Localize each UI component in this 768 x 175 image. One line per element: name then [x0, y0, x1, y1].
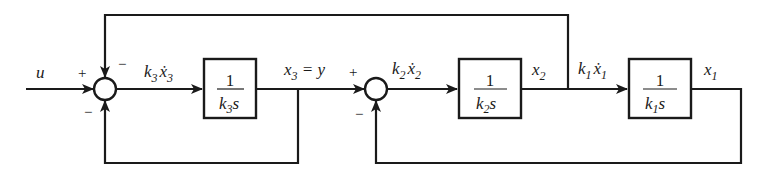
- sum2-plus-sign: +: [349, 64, 357, 80]
- sum2-bottom-minus-sign: −: [355, 106, 363, 122]
- sum1-top-minus-sign: −: [118, 56, 126, 72]
- sum1-plus-sign: +: [78, 65, 86, 81]
- summing-junction-1: [94, 78, 116, 100]
- signal-k1x1dot: k1ẋ1: [578, 59, 607, 82]
- signal-x3-eq-y: x3 = y: [283, 60, 326, 83]
- signal-k3x3dot: k3ẋ3: [144, 62, 173, 85]
- svg-text:1: 1: [486, 71, 495, 90]
- signal-x2: x2: [531, 60, 546, 83]
- signal-x1: x1: [703, 60, 718, 83]
- summing-junction-2: [365, 78, 387, 100]
- feedback-x3-to-sum1: [105, 89, 298, 163]
- block-diagram: u + − − k3ẋ3 1 k3s x3 = y + − k2ẋ2 1 k2s…: [0, 0, 768, 175]
- input-label-u: u: [36, 63, 45, 82]
- svg-text:1: 1: [656, 71, 665, 90]
- sum1-bottom-minus-sign: −: [84, 104, 92, 120]
- signal-k2x2dot: k2ẋ2: [392, 59, 421, 82]
- svg-text:1: 1: [226, 71, 235, 90]
